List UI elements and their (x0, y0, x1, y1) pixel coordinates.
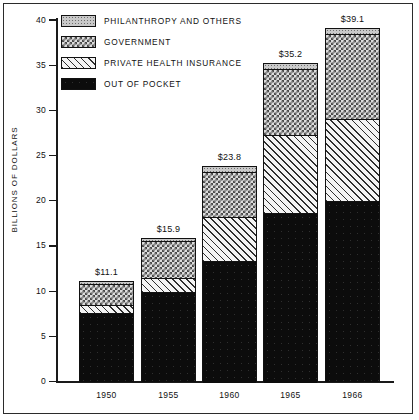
legend-swatch (61, 15, 96, 27)
legend-item: OUT OF POCKET (61, 75, 242, 92)
x-axis-tick-label: 1960 (202, 390, 257, 400)
bar-segment (203, 262, 256, 382)
bar-segment (80, 306, 133, 314)
legend-swatch (61, 78, 96, 90)
bar-value-label: $35.2 (279, 49, 303, 59)
y-axis-tick-label: 25 (2, 150, 46, 160)
bar-segment (142, 293, 195, 382)
stacked-bar (79, 281, 134, 381)
y-axis-labels: 0510152025303540 (0, 0, 46, 420)
legend-swatch (61, 36, 96, 48)
bar-segment (264, 214, 317, 383)
legend-label: PHILANTHROPY AND OTHERS (104, 16, 242, 26)
bar-segment (203, 173, 256, 218)
stacked-bar (202, 166, 257, 381)
bar-segment (264, 70, 317, 136)
x-axis-tick-label: 1966 (325, 390, 380, 400)
legend-label: PRIVATE HEALTH INSURANCE (104, 58, 242, 68)
y-axis-tick-label: 5 (2, 331, 46, 341)
x-axis-tick-label: 1950 (79, 390, 134, 400)
legend-item: PHILANTHROPY AND OTHERS (61, 12, 242, 29)
legend-swatch (61, 57, 96, 69)
y-axis-tick-label: 30 (2, 105, 46, 115)
bar-segment (326, 35, 379, 120)
bar-segment (264, 136, 317, 214)
bar-value-label: $23.8 (218, 152, 242, 162)
legend-item: PRIVATE HEALTH INSURANCE (61, 54, 242, 71)
bar-value-label: $11.1 (95, 267, 118, 277)
legend-item: GOVERNMENT (61, 33, 242, 50)
bar-segment (203, 218, 256, 262)
chart-legend: PHILANTHROPY AND OTHERSGOVERNMENTPRIVATE… (61, 12, 242, 96)
y-axis-tick-label: 0 (2, 376, 46, 386)
bar-segment (80, 314, 133, 383)
legend-label: OUT OF POCKET (104, 79, 181, 89)
y-axis-tick-label: 40 (2, 15, 46, 25)
stacked-bar (141, 238, 196, 382)
stacked-bar (263, 63, 318, 381)
y-axis-tick-label: 20 (2, 195, 46, 205)
chart-figure: BILLIONS OF DOLLARS 0510152025303540 $11… (0, 0, 419, 420)
legend-label: GOVERNMENT (104, 37, 171, 47)
bar-value-label: $39.1 (341, 14, 365, 24)
y-axis-tick-label: 35 (2, 60, 46, 70)
bar-segment (326, 120, 379, 201)
bar-segment (80, 285, 133, 306)
bar-segment (142, 279, 195, 293)
x-axis-tick-label: 1965 (263, 390, 318, 400)
y-axis-tick-label: 10 (2, 286, 46, 296)
bar-value-label: $15.9 (157, 224, 181, 234)
bar-segment (326, 202, 379, 383)
x-axis-tick-label: 1955 (141, 390, 196, 400)
bar-segment (142, 242, 195, 279)
y-axis-tick-label: 15 (2, 240, 46, 250)
stacked-bar (325, 28, 380, 381)
